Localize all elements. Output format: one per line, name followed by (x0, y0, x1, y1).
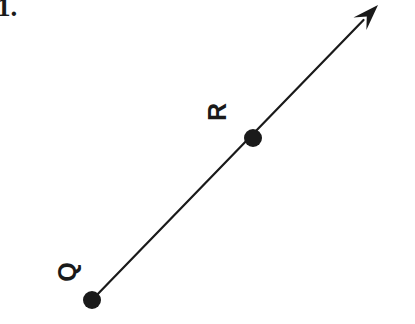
ray-line (92, 20, 364, 300)
point-dot-q (83, 291, 101, 309)
point-label-q: Q (55, 261, 81, 283)
geometry-figure: 1. Q R (0, 0, 415, 324)
point-dot-r (244, 129, 262, 147)
point-label-r: R (205, 101, 231, 123)
